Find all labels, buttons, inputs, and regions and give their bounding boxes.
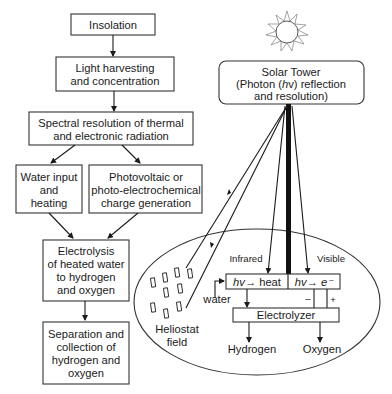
- box-electrolysis: Electrolysis of heated water to hydrogen…: [43, 240, 129, 301]
- tower-title: Solar Tower: [262, 66, 321, 78]
- water-input-line2: and: [40, 184, 59, 196]
- water-input-line1: Water input: [21, 171, 79, 183]
- solar-tower-box: Solar Tower (Photon (hv) reflection and …: [219, 61, 364, 104]
- box-photovoltaic: Photovoltaic or photo-electrochemical ch…: [89, 165, 202, 213]
- separation-line2: collection of: [56, 341, 116, 353]
- insolation-label: Insolation: [89, 19, 137, 31]
- electrolysis-line4: and oxygen: [57, 284, 115, 296]
- box-water-input: Water input and heating: [16, 165, 82, 213]
- electrolysis-line1: Electrolysis: [58, 245, 115, 257]
- hydrogen-label: Hydrogen: [228, 343, 277, 355]
- heliostat-icons: [150, 268, 192, 318]
- light-harvesting-line2: and concentration: [71, 75, 160, 87]
- pv-line2: photo-electrochemical: [91, 184, 200, 196]
- converter-box: hv→ heat hv→ e⁻: [226, 274, 340, 289]
- electrolysis-line2: of heated water: [47, 258, 124, 270]
- electrolyzer-box: Electrolyzer: [233, 308, 339, 322]
- solar-hydrogen-diagram: Insolation Light harvesting and concentr…: [0, 0, 392, 394]
- visible-label: Visible: [317, 253, 345, 264]
- beam-visible: [292, 106, 308, 273]
- electrolysis-line3: to hydrogen: [56, 271, 115, 283]
- arrow-pv-to-electrolysis: [108, 213, 138, 238]
- arrow-spectral-to-water: [51, 145, 75, 163]
- water-input-line3: heating: [31, 197, 68, 209]
- water-label: water: [202, 293, 231, 305]
- tower-pole: [286, 104, 291, 280]
- infrared-label: Infrared: [229, 253, 262, 264]
- separation-line1: Separation and: [48, 328, 124, 340]
- tower-subtitle-line3: and resolution): [254, 90, 328, 102]
- heat-conversion-label: hv→ heat: [233, 276, 282, 288]
- plus-label: +: [330, 294, 336, 305]
- beam-infrared: [268, 106, 285, 273]
- oxygen-label: Oxygen: [303, 343, 342, 355]
- spectral-line2: and electronic radiation: [53, 130, 169, 142]
- pv-line1: Photovoltaic or: [109, 171, 183, 183]
- box-insolation: Insolation: [71, 14, 155, 35]
- arrow-water-to-electrolysis: [49, 213, 73, 238]
- arrow-spectral-to-pv: [122, 145, 140, 163]
- heliostat-label-line2: field: [167, 336, 188, 348]
- box-light-harvesting: Light harvesting and concentration: [56, 57, 174, 91]
- light-harvesting-line1: Light harvesting: [76, 62, 155, 74]
- tower-subtitle: (Photon (hv) reflection: [236, 78, 346, 90]
- beam-arrowhead-1: [227, 189, 231, 195]
- separation-line3: hydrogen and: [52, 354, 120, 366]
- sun-icon: [266, 11, 308, 51]
- electrolyzer-label: Electrolyzer: [257, 309, 316, 321]
- box-separation: Separation and collection of hydrogen an…: [43, 322, 129, 384]
- separation-line4: oxygen: [68, 367, 104, 379]
- beam-arrowhead-2: [210, 242, 214, 248]
- box-spectral-resolution: Spectral resolution of thermal and elect…: [29, 112, 193, 145]
- pv-line3: charge generation: [101, 197, 191, 209]
- minus-label: –: [305, 293, 311, 304]
- spectral-line1: Spectral resolution of thermal: [38, 117, 184, 129]
- heliostat-label-line1: Heliostat: [155, 323, 199, 335]
- electron-conversion-label: hv→ e⁻: [295, 276, 334, 288]
